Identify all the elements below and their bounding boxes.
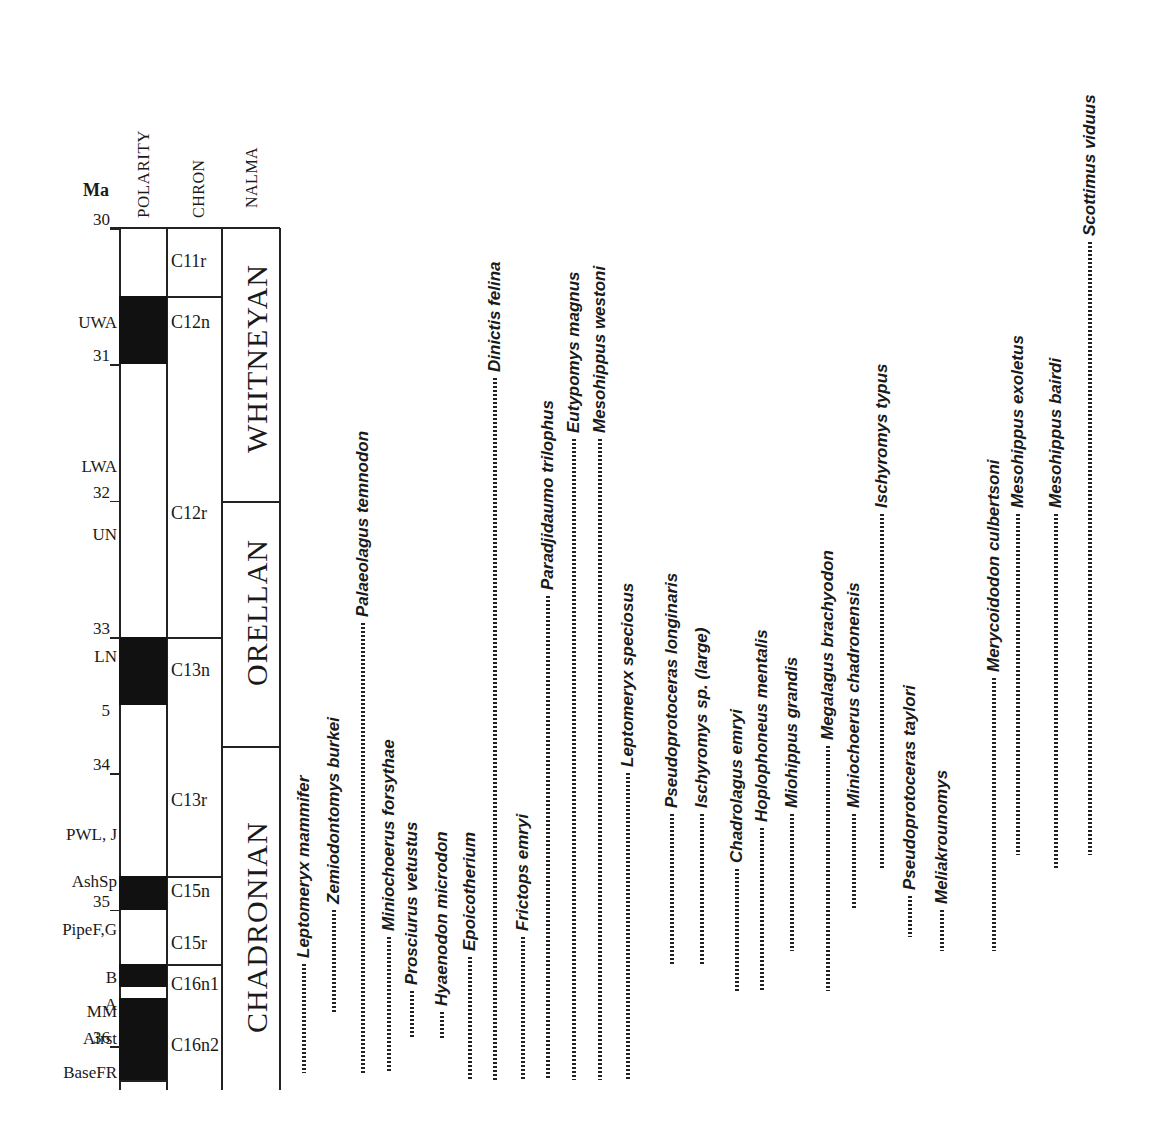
taxon-label: Epoicotherium [460,832,480,951]
taxon-range-bar [626,773,630,1080]
chron-header: CHRON [190,159,208,218]
strat-level-label: LN [94,647,117,667]
age-tick [110,773,120,775]
taxon-range-bar [598,439,602,1080]
nalma-header: NALMA [243,147,261,208]
taxon-range-bar [790,814,794,950]
taxon-range-bar [826,746,830,991]
taxon-label: Miohippus grandis [782,657,802,808]
taxon-range-bar [700,814,704,964]
age-tick-label: 34 [40,755,110,775]
polarity-normal-block [119,998,167,1080]
chron-label: C11r [171,251,206,272]
taxon-label: Ischyromys typus [872,364,892,509]
taxon-label: Pseudoprotoceras longinaris [662,573,682,808]
taxon-range-bar [1016,514,1020,855]
chron-boundary [167,637,222,639]
age-tick [110,637,120,639]
taxon-label: Merycoidodon culbertsoni [984,459,1004,672]
chron-boundary [167,296,222,298]
taxon-range-bar [760,828,764,992]
taxon-label: Mesohippus westoni [590,266,610,433]
taxon-label: Mesohippus bairdi [1046,358,1066,508]
taxon-range-bar [546,596,550,1080]
nalma-boundary [222,501,280,503]
polarity-normal-block [119,637,167,705]
age-tick [110,501,120,503]
taxon-range-bar [940,910,944,951]
strat-level-label: LWA [81,457,117,477]
taxon-range-bar [1054,514,1058,868]
taxon-range-bar [361,623,365,1073]
taxon-label: Zemiodontomys burkei [324,717,344,904]
nalma-label-chadronian: CHADRONIAN [240,822,274,1034]
taxon-label: Mesohippus exoletus [1008,335,1028,508]
taxon-range-bar [1088,242,1092,856]
chron-label: C12r [171,503,207,524]
strat-level-label: AshSp [72,872,117,892]
taxon-range-bar [493,378,497,1080]
polarity-normal-block [119,876,167,910]
taxon-range-bar [908,896,912,937]
taxon-label: Hyaenodon microdon [432,831,452,1006]
age-tick-label: 33 [40,619,110,639]
strat-level-label: Airst [83,1029,117,1049]
chron-boundary [167,964,222,966]
age-tick-label: 31 [40,346,110,366]
taxon-range-bar [332,910,336,1012]
chron-boundary [167,876,222,878]
taxon-range-bar [572,439,576,1080]
chron-label: C15n [171,881,210,902]
taxon-label: Miniochoerus chadronensis [844,582,864,808]
age-tick-label: 35 [40,892,110,912]
taxon-range-bar [521,937,525,1080]
taxon-label: Dinictis felina [485,261,505,372]
chron-right-border [221,228,223,1090]
taxon-label: Miniochoerus forsythae [379,739,399,931]
top-border [110,227,280,229]
nalma-label-whitneyan: WHITNEYAN [240,264,274,453]
taxon-label: Paradjidaumo trilophus [538,400,558,590]
taxon-label: Leptomeryx speciosus [618,583,638,767]
taxon-range-bar [410,991,414,1039]
taxon-label: Frictops emryi [513,814,533,931]
taxon-label: Meliakrounomys [932,770,952,904]
age-tick [110,910,120,912]
chron-label: C16n1 [171,974,219,995]
strat-level-label: MM [87,1002,117,1022]
strat-level-label: BaseFR [63,1063,117,1083]
taxon-range-bar [440,1012,444,1039]
nalma-boundary [222,746,280,748]
strat-level-label: PWL, J [66,825,117,845]
taxon-range-bar [735,869,739,992]
ma-header: Ma [83,180,109,201]
age-tick [110,364,120,366]
chron-label: C15r [171,933,207,954]
taxon-label: Palaeolagus temnodon [353,431,373,617]
taxon-range-bar [468,957,472,1080]
taxon-label: Prosciurus vetustus [402,822,422,985]
age-tick-label: 5 [40,701,110,721]
age-tick-label: 30 [40,210,110,230]
chron-label: C13n [171,660,210,681]
strat-level-label: B [106,968,117,988]
taxon-range-bar [992,678,996,951]
polarity-normal-block [119,296,167,364]
strat-level-label: PipeF,G [62,920,117,940]
nalma-right-border [279,228,281,1090]
age-tick-label: 32 [40,483,110,503]
polarity-bottom [119,1080,167,1082]
taxon-label: Chadrolagus emryi [727,709,747,863]
chron-label: C12n [171,312,210,333]
taxon-label: Pseudoprotoceras taylori [900,685,920,890]
taxon-range-bar [670,814,674,964]
taxon-label: Hoplophoneus mentalis [752,629,772,822]
age-tick [110,228,120,230]
strat-level-label: UWA [78,313,117,333]
taxon-range-bar [852,814,856,909]
chron-label: C16n2 [171,1035,219,1056]
taxon-range-bar [880,514,884,868]
taxon-range-bar [387,937,391,1073]
polarity-header: POLARITY [134,130,154,218]
polarity-normal-block [119,964,167,987]
